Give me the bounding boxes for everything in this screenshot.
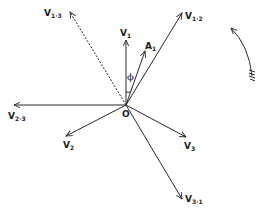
vector-v3-1 <box>126 105 182 199</box>
vector-labels: V1A1V1·2V1·3V2·3V2V3V3·1 <box>8 8 203 205</box>
vector-label-v2-3: V2·3 <box>8 111 26 122</box>
vector-label-v3-1: V3·1 <box>185 194 203 205</box>
phi-angle-arc <box>126 91 131 92</box>
vector-label-v1-2: V1·2 <box>185 11 203 22</box>
vector-label-v1: V1 <box>120 28 131 39</box>
vector-label-a1: A1 <box>145 41 156 52</box>
vector-v1-2 <box>126 13 182 105</box>
vector-group <box>14 12 186 199</box>
vector-label-v3: V3 <box>184 141 195 152</box>
curved-arrow-icon <box>231 28 255 81</box>
origin-label: O <box>122 109 130 119</box>
vector-v2 <box>66 105 126 136</box>
phasor-diagram: ϕ O V1A1V1·2V1·3V2·3V2V3V3·1 <box>0 0 266 211</box>
vector-label-v1-3: V1·3 <box>44 8 62 19</box>
vector-v1-3 <box>70 12 126 105</box>
phi-label: ϕ <box>127 71 134 82</box>
vector-label-v2: V2 <box>63 140 74 151</box>
